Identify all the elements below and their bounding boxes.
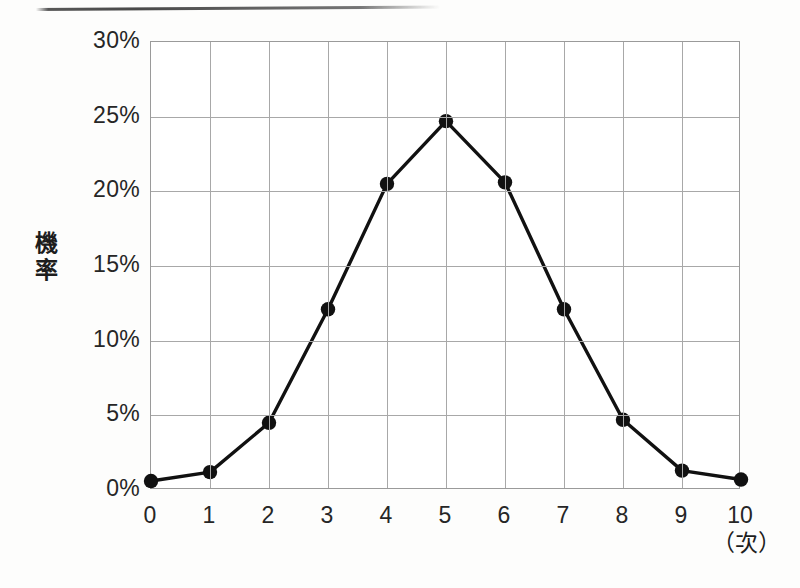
x-axis-tick-label: 3 bbox=[297, 502, 357, 528]
y-axis-tick-label: 25% bbox=[48, 104, 140, 127]
data-point-marker bbox=[144, 474, 158, 488]
y-axis-tick-label: 0% bbox=[48, 477, 140, 500]
x-axis-tick-label: 5 bbox=[415, 502, 475, 528]
y-axis-tick-label: 5% bbox=[48, 402, 140, 425]
gridline-horizontal bbox=[151, 415, 739, 416]
y-axis-tick-label: 15% bbox=[48, 253, 140, 276]
gridline-horizontal bbox=[151, 117, 739, 118]
x-axis-tick-label: 1 bbox=[179, 502, 239, 528]
x-axis-tick-label: 6 bbox=[474, 502, 534, 528]
gridline-vertical bbox=[505, 42, 506, 488]
x-axis-tick-labels: 012345678910 bbox=[150, 502, 740, 536]
x-axis-unit-label: （次） bbox=[700, 530, 792, 556]
gridline-horizontal bbox=[151, 266, 739, 267]
probability-distribution-chart: 機 率 0%5%10%15%20%25%30% 012345678910 （次） bbox=[0, 0, 800, 588]
gridline-vertical bbox=[210, 42, 211, 488]
gridline-vertical bbox=[564, 42, 565, 488]
gridline-vertical bbox=[446, 42, 447, 488]
x-axis-tick-label: 2 bbox=[238, 502, 298, 528]
y-axis-tick-label: 30% bbox=[48, 29, 140, 52]
gridline-vertical bbox=[682, 42, 683, 488]
gridline-horizontal bbox=[151, 191, 739, 192]
y-axis-tick-label: 10% bbox=[48, 328, 140, 351]
gridline-vertical bbox=[269, 42, 270, 488]
x-axis-tick-label: 10 bbox=[710, 502, 770, 528]
gridline-vertical bbox=[387, 42, 388, 488]
x-axis-tick-label: 9 bbox=[651, 502, 711, 528]
x-axis-tick-label: 4 bbox=[356, 502, 416, 528]
plot-area bbox=[150, 41, 740, 489]
x-axis-tick-label: 0 bbox=[120, 502, 180, 528]
data-point-marker bbox=[734, 472, 748, 486]
x-axis-tick-label: 8 bbox=[592, 502, 652, 528]
gridline-vertical bbox=[623, 42, 624, 488]
gridline-vertical bbox=[328, 42, 329, 488]
x-axis-tick-label: 7 bbox=[533, 502, 593, 528]
scan-artifact-line bbox=[36, 6, 440, 11]
y-axis-tick-labels: 0%5%10%15%20%25%30% bbox=[40, 41, 140, 489]
gridline-horizontal bbox=[151, 341, 739, 342]
y-axis-tick-label: 20% bbox=[48, 178, 140, 201]
